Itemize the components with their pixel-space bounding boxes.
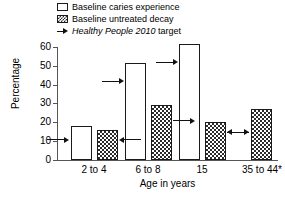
y-tick-label-60: 60 [27,42,51,52]
x-tick-label-35-to-44: 35 to 44* [231,164,285,175]
bar-chart: Baseline caries experience Baseline untr… [0,0,285,198]
y-tick-label-20: 20 [27,117,51,127]
target-arrow-decay-35-to-44 [227,129,249,136]
y-tick-label-0: 0 [27,155,51,165]
bar-decay-2-to-4 [97,130,118,160]
target-arrow-caries-15 [156,59,178,66]
legend-label-healthy-people-target: Healthy People 2010 target [72,26,181,36]
legend-label-target-italic: Healthy People 2010 [72,26,156,36]
y-tick-label-40: 40 [27,80,51,90]
plot-area: 60 50 40 30 20 10 0 [57,47,278,161]
x-tick-label-15: 15 [172,164,232,175]
legend-item-untreated-decay: Baseline untreated decay [57,13,272,25]
legend-item-caries-experience: Baseline caries experience [57,1,272,13]
legend-label-caries-experience: Baseline caries experience [72,2,180,12]
bar-decay-6-to-8 [151,105,172,160]
y-axis-title: Percentage [10,44,21,124]
bar-caries-6-to-8 [125,63,146,160]
target-arrow-decay-2-to-4 [119,136,141,143]
legend-item-healthy-people-target: Healthy People 2010 target [57,25,272,37]
target-arrow-decay-6-to-8 [173,117,195,124]
x-tick-label-2-to-4: 2 to 4 [64,164,124,175]
target-arrow-caries-6-to-8 [102,78,124,85]
y-tick-label-30: 30 [27,98,51,108]
bar-decay-15 [205,122,226,160]
x-tick-label-6-to-8: 6 to 8 [118,164,178,175]
target-arrow-caries-2-to-4 [47,136,69,143]
bar-decay-35-to-44 [251,109,272,160]
x-axis-title: Age in years [55,178,280,189]
y-tick-label-50: 50 [27,61,51,71]
bar-caries-15 [179,44,200,160]
bar-caries-2-to-4 [71,126,92,160]
legend-label-untreated-decay: Baseline untreated decay [72,14,174,24]
open-square-swatch [57,3,68,11]
legend-label-target-rest: target [156,26,182,36]
hatched-square-swatch [57,15,68,23]
arrow-marker-icon [57,27,68,35]
chart-legend: Baseline caries experience Baseline untr… [57,1,272,37]
